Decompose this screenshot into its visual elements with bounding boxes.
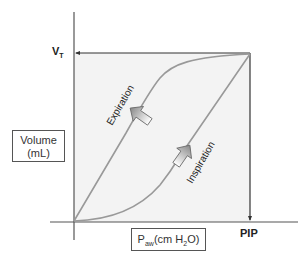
paw-unit-post: O) bbox=[187, 233, 199, 245]
paw-unit-pre: (cm H bbox=[154, 233, 183, 245]
y-axis-label-box: Volume (mL) bbox=[12, 130, 65, 162]
plot-area bbox=[74, 53, 250, 222]
vt-marker-label: VT bbox=[52, 45, 64, 59]
x-axis-label-box: Paw(cm H2O) bbox=[131, 228, 206, 251]
paw-sub: aw bbox=[145, 240, 154, 247]
pip-marker-label: PIP bbox=[240, 227, 258, 239]
vt-sub: T bbox=[59, 52, 63, 59]
y-axis-label-line1: Volume bbox=[13, 134, 64, 147]
paw-main: P bbox=[138, 233, 145, 245]
y-axis-label-line2: (mL) bbox=[13, 147, 64, 160]
